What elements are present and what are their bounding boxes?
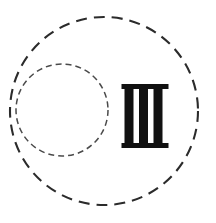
figure-canvas: Roman numeral three inside two dashed ci… xyxy=(0,0,216,223)
numeral-stem-1 xyxy=(125,84,134,148)
roman-numeral-three xyxy=(122,84,169,148)
numeral-bottom-serif-bar xyxy=(122,143,169,148)
numeral-stem-2 xyxy=(139,84,148,148)
numeral-stem-3 xyxy=(154,84,163,148)
diagram-figure: Roman numeral three inside two dashed ci… xyxy=(0,0,216,223)
